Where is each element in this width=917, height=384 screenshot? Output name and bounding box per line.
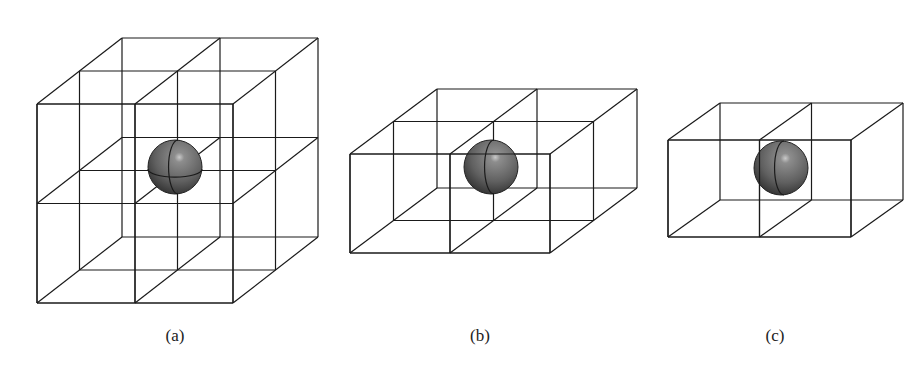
panel-b-lattice <box>350 89 637 253</box>
lattice-edge <box>668 103 720 140</box>
panel-c-lattice <box>668 103 903 237</box>
panel-b-label: (b) <box>470 326 490 346</box>
panel-a-label: (a) <box>166 326 185 346</box>
lattice-edge <box>668 200 720 237</box>
sphere-particle <box>754 141 808 195</box>
sphere-particle <box>464 140 518 194</box>
lattice-edge <box>851 200 903 237</box>
panel-c-label: (c) <box>766 326 785 346</box>
lattice-edge <box>760 200 812 237</box>
lattice-edge <box>760 103 812 140</box>
lattice-edge <box>851 103 903 140</box>
panel-a-lattice <box>37 38 318 303</box>
sphere-particle <box>148 140 202 194</box>
